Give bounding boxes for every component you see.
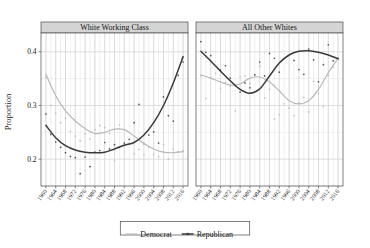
data-point	[99, 150, 101, 152]
data-point	[172, 148, 174, 150]
data-point	[168, 158, 170, 160]
data-point	[220, 87, 222, 89]
data-point	[210, 55, 212, 57]
panel-1: White Working Class196019641968197219761…	[27, 22, 188, 202]
data-point	[153, 131, 155, 133]
y-tick-label: 0.3	[27, 101, 37, 110]
data-point	[143, 154, 145, 156]
data-point	[114, 160, 116, 162]
data-point	[215, 72, 217, 74]
data-point	[128, 138, 130, 140]
data-point	[239, 91, 241, 93]
data-point	[323, 64, 325, 66]
data-point	[293, 60, 295, 62]
data-point	[55, 141, 57, 143]
data-point	[79, 173, 81, 175]
data-point	[264, 97, 266, 99]
data-point	[50, 134, 52, 136]
data-point	[89, 138, 91, 140]
data-point	[65, 152, 67, 154]
data-point	[158, 156, 160, 158]
data-point	[244, 75, 246, 77]
data-point	[249, 83, 251, 85]
y-tick-label: 0.4	[27, 47, 37, 56]
data-point	[244, 82, 246, 84]
data-point	[119, 124, 121, 126]
data-point	[70, 156, 72, 158]
data-point	[65, 118, 67, 120]
data-point	[99, 124, 101, 126]
data-point	[200, 41, 202, 43]
data-point	[225, 65, 227, 67]
data-point	[109, 148, 111, 150]
data-point	[89, 166, 91, 168]
data-point	[308, 48, 310, 50]
data-point	[163, 96, 165, 98]
data-point	[60, 147, 62, 149]
data-point	[123, 142, 125, 144]
data-point	[55, 112, 57, 114]
data-point	[177, 75, 179, 77]
data-point	[318, 81, 320, 83]
data-point	[278, 114, 280, 116]
panel-group: White Working Class196019641968197219761…	[27, 22, 343, 202]
data-point	[133, 122, 135, 124]
data-point	[138, 149, 140, 151]
data-point	[259, 61, 261, 63]
data-point	[332, 60, 334, 62]
data-point	[138, 104, 140, 106]
data-point	[274, 57, 276, 59]
panel-2: All Other Whites196019641968197219761980…	[191, 22, 343, 202]
data-point	[308, 111, 310, 113]
data-point	[158, 142, 160, 144]
data-point	[153, 153, 155, 155]
data-point	[205, 51, 207, 53]
data-point	[269, 53, 271, 55]
data-point	[229, 77, 231, 79]
data-point	[288, 107, 290, 109]
data-point	[182, 61, 184, 63]
data-point	[274, 118, 276, 120]
panel-strip-label: White Working Class	[80, 23, 149, 32]
data-point	[293, 115, 295, 117]
chart-figure: Proportion White Working Class1960196419…	[0, 0, 370, 248]
data-point	[205, 98, 207, 100]
data-point	[303, 73, 305, 75]
data-point	[318, 93, 320, 95]
y-tick-label: 0.2	[27, 155, 37, 164]
data-point	[303, 97, 305, 99]
data-point	[148, 134, 150, 136]
data-point	[74, 135, 76, 137]
legend-label: Democrat	[140, 230, 172, 239]
data-point	[298, 69, 300, 71]
data-point	[239, 76, 241, 78]
data-point	[104, 142, 106, 144]
data-point	[259, 65, 261, 67]
data-point	[50, 105, 52, 107]
data-point	[84, 156, 86, 158]
data-point	[109, 133, 111, 135]
data-point	[94, 129, 96, 131]
data-point	[84, 133, 86, 135]
proportion-by-year-faceted-chart: Proportion White Working Class1960196419…	[0, 0, 370, 248]
data-point	[254, 74, 256, 76]
data-point	[104, 127, 106, 129]
data-point	[172, 120, 174, 122]
data-point	[249, 87, 251, 89]
data-point	[163, 144, 165, 146]
legend-point-marker	[186, 233, 189, 236]
data-point	[234, 110, 236, 112]
data-point	[269, 89, 271, 91]
data-point	[264, 75, 266, 77]
data-point	[168, 115, 170, 117]
data-point	[283, 103, 285, 105]
data-point	[323, 106, 325, 108]
data-point	[114, 144, 116, 146]
data-point	[79, 140, 81, 142]
data-point	[313, 80, 315, 82]
data-point	[133, 153, 135, 155]
data-point	[327, 44, 329, 46]
data-point	[60, 122, 62, 124]
data-point	[45, 113, 47, 115]
y-axis-title: Proportion	[3, 93, 13, 130]
